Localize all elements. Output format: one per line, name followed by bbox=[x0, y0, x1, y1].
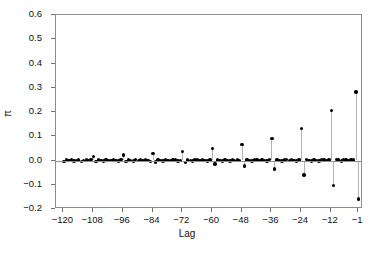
data-point bbox=[211, 147, 214, 150]
x-axis-tick bbox=[241, 208, 242, 212]
y-axis-tick-label: 0.6 bbox=[8, 9, 42, 19]
y-axis-tick-label: −0.1 bbox=[8, 179, 42, 189]
x-axis-tick bbox=[270, 208, 271, 212]
stem-line bbox=[242, 144, 243, 160]
data-point bbox=[243, 164, 246, 167]
y-axis-tick-label: 0.2 bbox=[8, 106, 42, 116]
y-axis: −0.2−0.10.00.10.20.30.40.50.6 bbox=[48, 14, 55, 208]
stem-line bbox=[301, 129, 302, 161]
x-axis: −120−108−96−84−72−60−48−36−24−12−1 bbox=[55, 208, 362, 216]
x-axis-tick-label: −120 bbox=[52, 215, 73, 225]
stem-line bbox=[212, 149, 213, 161]
x-axis-tick-label: −96 bbox=[114, 215, 130, 225]
data-point bbox=[357, 197, 360, 200]
y-axis-tick-label: −0.2 bbox=[8, 203, 42, 213]
x-axis-tick bbox=[122, 208, 123, 212]
x-axis-title: Lag bbox=[0, 228, 374, 239]
data-point bbox=[151, 152, 154, 155]
x-axis-tick-label: −60 bbox=[203, 215, 219, 225]
data-point bbox=[122, 153, 125, 156]
y-axis-tick-label: 0.4 bbox=[8, 58, 42, 68]
x-axis-tick-label: −84 bbox=[143, 215, 159, 225]
data-point bbox=[240, 143, 243, 146]
data-point bbox=[332, 184, 335, 187]
x-axis-tick bbox=[181, 208, 182, 212]
data-point bbox=[354, 90, 357, 93]
plot-panel bbox=[55, 14, 362, 208]
stem-line bbox=[358, 161, 359, 199]
zero-baseline bbox=[56, 161, 361, 162]
x-axis-tick bbox=[300, 208, 301, 212]
x-axis-tick bbox=[92, 208, 93, 212]
x-axis-tick bbox=[62, 208, 63, 212]
x-axis-tick-label: −24 bbox=[292, 215, 308, 225]
y-axis-tick-label: 0.0 bbox=[8, 155, 42, 165]
stem-line bbox=[333, 161, 334, 186]
stem-line bbox=[331, 111, 332, 161]
stem-line bbox=[271, 138, 272, 160]
y-axis-tick-label: 0.3 bbox=[8, 82, 42, 92]
data-point bbox=[213, 162, 216, 165]
x-axis-tick bbox=[211, 208, 212, 212]
data-point bbox=[273, 167, 276, 170]
x-axis-tick-label: −12 bbox=[322, 215, 338, 225]
x-axis-tick bbox=[330, 208, 331, 212]
data-point bbox=[92, 155, 95, 158]
y-axis-tick-label: 0.1 bbox=[8, 131, 42, 141]
y-axis-tick-label: 0.5 bbox=[8, 34, 42, 44]
x-axis-tick-label: −48 bbox=[233, 215, 249, 225]
data-point bbox=[181, 150, 184, 153]
stem-line bbox=[356, 92, 357, 161]
x-axis-tick-label: −1 bbox=[352, 215, 363, 225]
data-point bbox=[300, 127, 303, 130]
x-axis-tick-label: −36 bbox=[262, 215, 278, 225]
plot-area bbox=[56, 15, 361, 207]
data-point bbox=[270, 137, 273, 140]
x-axis-tick-label: −72 bbox=[173, 215, 189, 225]
pacf-chart: π −0.2−0.10.00.10.20.30.40.50.6 −120−108… bbox=[0, 0, 374, 255]
x-axis-tick bbox=[152, 208, 153, 212]
data-point bbox=[302, 173, 305, 176]
x-axis-tick bbox=[357, 208, 358, 212]
x-axis-tick-label: −108 bbox=[81, 215, 102, 225]
